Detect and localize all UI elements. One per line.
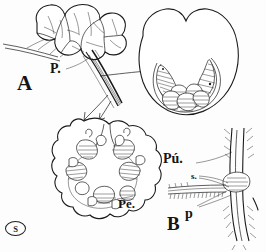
seta-label: s. bbox=[191, 172, 197, 181]
leader-line-pubescence bbox=[196, 152, 232, 163]
scale-mark bbox=[253, 198, 258, 210]
arrow-to-notch bbox=[99, 101, 111, 120]
pedicel-label: p bbox=[185, 207, 193, 221]
perianth-label: Pe. bbox=[118, 197, 135, 210]
artist-signature: S bbox=[5, 221, 26, 236]
pubescence-label: Pú. bbox=[163, 152, 183, 166]
botanical-figure: A P. Pe. Pú. s. p B S bbox=[0, 0, 266, 252]
arrow-to-lower-section bbox=[84, 95, 108, 120]
panel-a-label: A bbox=[17, 73, 32, 94]
illustration-canvas bbox=[0, 0, 266, 252]
inflorescence-cluster bbox=[36, 4, 126, 59]
circular-cross-section bbox=[52, 118, 162, 218]
hairy-stem-node bbox=[168, 128, 256, 250]
bilobed-cross-section bbox=[139, 9, 238, 115]
peduncle-label: P. bbox=[50, 62, 61, 76]
panel-b-label: B bbox=[167, 214, 180, 233]
leader-line-peduncle bbox=[66, 57, 90, 69]
ciliate-leaf-blade bbox=[168, 182, 226, 199]
marker-dot-left bbox=[162, 68, 164, 70]
marker-dot-right bbox=[209, 83, 211, 85]
node-sheath bbox=[223, 172, 250, 192]
